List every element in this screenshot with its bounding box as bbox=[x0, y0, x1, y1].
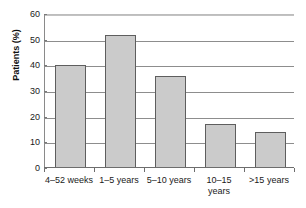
y-tick-label-10: 10 bbox=[4, 137, 40, 147]
y-tick-label-50: 50 bbox=[4, 35, 40, 45]
bar bbox=[55, 65, 86, 168]
x-tick-mark bbox=[294, 168, 295, 172]
y-tick-mark-20 bbox=[44, 117, 47, 118]
y-tick-label-60: 60 bbox=[4, 9, 40, 19]
y-tick-mark-30 bbox=[44, 91, 47, 92]
plot-area bbox=[44, 14, 294, 168]
x-axis-line bbox=[44, 167, 294, 168]
x-axis-label-line: >15 years bbox=[238, 175, 300, 186]
bar bbox=[155, 76, 186, 168]
y-tick-mark-0 bbox=[44, 168, 47, 169]
bar bbox=[205, 124, 236, 168]
y-tick-mark-40 bbox=[44, 65, 47, 66]
gridline-50 bbox=[45, 41, 294, 42]
y-tick-label-30: 30 bbox=[4, 86, 40, 96]
y-tick-mark-10 bbox=[44, 142, 47, 143]
x-tick-mark bbox=[94, 168, 95, 172]
x-axis-label-line: years bbox=[188, 186, 250, 197]
bar bbox=[105, 35, 136, 168]
y-tick-label-40: 40 bbox=[4, 60, 40, 70]
x-tick-mark bbox=[144, 168, 145, 172]
y-tick-mark-50 bbox=[44, 40, 47, 41]
gridline-60 bbox=[45, 15, 294, 16]
y-tick-label-20: 20 bbox=[4, 112, 40, 122]
bar bbox=[255, 132, 286, 168]
bar-chart: Patients (%) 0102030405060 4–52 weeks1–5… bbox=[0, 0, 306, 208]
y-tick-label-0: 0 bbox=[4, 163, 40, 173]
y-axis-tick-labels: 0102030405060 bbox=[0, 14, 40, 168]
x-axis-label: >15 years bbox=[238, 175, 300, 186]
x-tick-mark bbox=[244, 168, 245, 172]
x-tick-mark bbox=[194, 168, 195, 172]
y-tick-mark-60 bbox=[44, 14, 47, 15]
